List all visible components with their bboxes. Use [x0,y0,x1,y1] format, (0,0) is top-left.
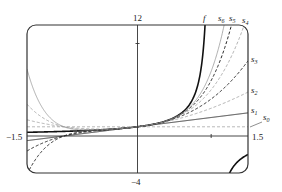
label-s0: s0 [263,112,270,123]
label-s6: s6 [218,13,225,24]
label-s5: s5 [229,13,236,24]
label-f: f [203,13,207,23]
label-s4: s4 [242,15,249,26]
taylor-polynomial-chart: 12 −4 −1.5 1.5 f s6 s5 s4 s3 s2 s1 s0 [0,0,282,192]
label-s3: s3 [251,54,258,65]
x-max-label: 1.5 [252,132,264,142]
series-labels: f s6 s5 s4 s3 s2 s1 s0 [203,13,270,127]
y-min-label: −4 [131,177,141,187]
label-s1: s1 [251,105,258,116]
label-s0-leader [250,122,262,127]
x-min-label: −1.5 [6,132,23,142]
y-max-label: 12 [133,13,142,23]
label-s2: s2 [251,85,258,96]
